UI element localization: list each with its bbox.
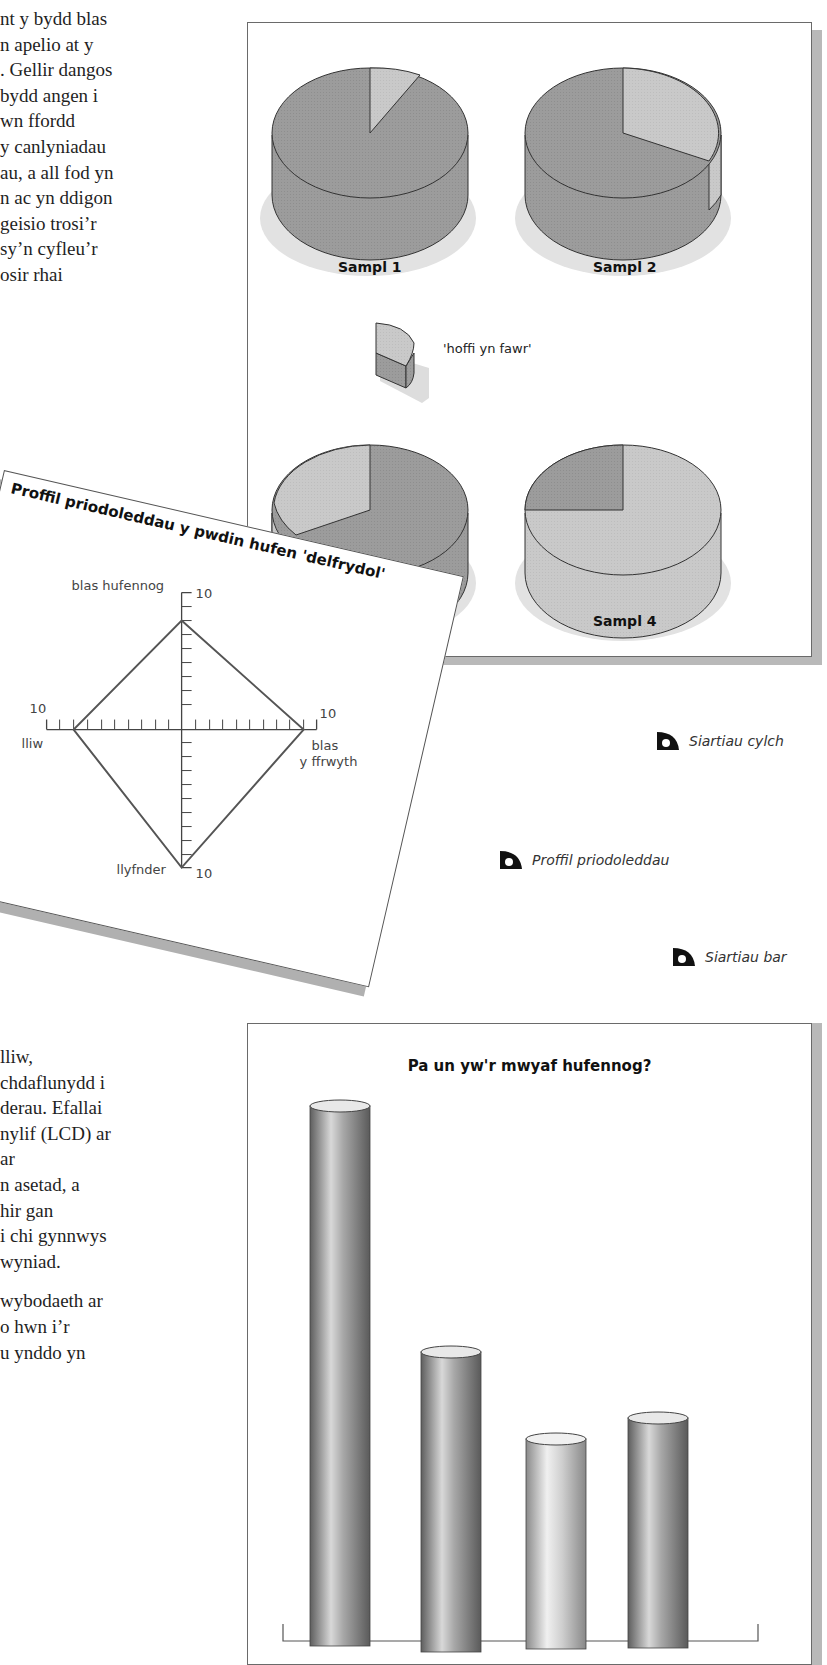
bar-chart-panel: Pa un yw'r mwyaf hufennog? xyxy=(247,1023,812,1665)
label-text: Siartiau cylch xyxy=(689,733,784,749)
bar-2 xyxy=(421,1346,481,1652)
text-line: derau. Efallai xyxy=(0,1095,240,1121)
axis-label-llyfnder: llyfnder xyxy=(117,862,167,877)
legend-swatch xyxy=(376,323,429,403)
body-text-top: nt y bydd blas n apelio at y . Gellir da… xyxy=(0,6,240,288)
quarter-circle-icon xyxy=(657,732,679,750)
bar-4 xyxy=(628,1412,688,1648)
pie-label-sampl-1: Sampl 1 xyxy=(338,259,402,275)
text-line: hir gan xyxy=(0,1198,240,1224)
text-line: . Gellir dangos xyxy=(0,57,240,83)
pie-sampl-4 xyxy=(515,445,731,641)
text-line: n asetad, a xyxy=(0,1172,240,1198)
axis-max-right: 10 xyxy=(320,706,337,721)
label-text: Siartiau bar xyxy=(705,949,787,965)
axis-max-left: 10 xyxy=(30,701,47,716)
text-line: nylif (LCD) ar xyxy=(0,1121,240,1147)
text-line: wybodaeth ar xyxy=(0,1288,240,1314)
axis-max-top: 10 xyxy=(196,586,213,601)
text-line: chdaflunydd i xyxy=(0,1070,240,1096)
axis-label-blas: blas xyxy=(312,738,339,753)
label-siartiau-bar: Siartiau bar xyxy=(673,948,787,966)
text-line: bydd angen i xyxy=(0,83,240,109)
quarter-circle-icon xyxy=(673,948,695,966)
axis-label-blas-hufennog: blas hufennog xyxy=(72,578,164,593)
label-proffil-priodoleddau: Proffil priodoleddau xyxy=(500,851,669,869)
label-siartiau-cylch: Siartiau cylch xyxy=(657,732,784,750)
text-line: n apelio at y xyxy=(0,32,240,58)
text-line: ar xyxy=(0,1146,240,1172)
text-line: y canlyniadau xyxy=(0,134,240,160)
bar-chart xyxy=(248,1024,811,1664)
text-line: u ynddo yn xyxy=(0,1340,240,1366)
pie-label-sampl-2: Sampl 2 xyxy=(593,259,657,275)
axis-max-bottom: 10 xyxy=(196,866,213,881)
pie-sampl-2 xyxy=(515,68,731,276)
text-line: wyniad. xyxy=(0,1249,240,1275)
text-line: osir rhai xyxy=(0,262,240,288)
text-line: wn ffordd xyxy=(0,108,240,134)
text-line: i chi gynnwys xyxy=(0,1223,240,1249)
text-line: geisio trosi’r xyxy=(0,211,240,237)
legend-label: 'hoffi yn fawr' xyxy=(443,341,532,356)
label-text: Proffil priodoleddau xyxy=(532,852,669,868)
text-line: nt y bydd blas xyxy=(0,6,240,32)
quarter-circle-icon xyxy=(500,851,522,869)
text-line: lliw, xyxy=(0,1044,240,1070)
axis-label-lliw: lliw xyxy=(22,736,44,751)
text-line: o hwn i’r xyxy=(0,1314,240,1340)
text-line xyxy=(0,1274,240,1288)
axis-label-y-ffrwyth: y ffrwyth xyxy=(300,754,358,769)
text-line: au, a all fod yn xyxy=(0,160,240,186)
text-line: sy’n cyfleu’r xyxy=(0,236,240,262)
bar-1 xyxy=(310,1100,370,1646)
pie-sampl-1 xyxy=(260,68,476,276)
pie-label-sampl-4: Sampl 4 xyxy=(593,613,657,629)
body-text-bottom: lliw, chdaflunydd i derau. Efallai nylif… xyxy=(0,1044,240,1365)
text-line: n ac yn ddigon xyxy=(0,185,240,211)
bar-3 xyxy=(526,1433,586,1649)
